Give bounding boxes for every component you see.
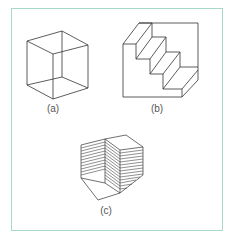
figure-drawing: [0, 0, 230, 241]
panel-label-a: (a): [47, 103, 59, 114]
schroeder-staircase: [123, 23, 198, 97]
panel-label-b: (b): [151, 103, 163, 114]
necker-cube: [27, 31, 88, 99]
panel-label-c: (c): [100, 205, 112, 216]
stacked-sheets-block: [81, 135, 143, 200]
